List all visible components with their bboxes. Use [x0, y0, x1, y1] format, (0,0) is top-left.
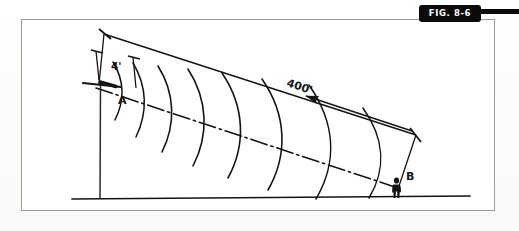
overall-extension-left — [99, 34, 104, 84]
wavefront-arc-4 — [188, 69, 204, 166]
near-dimension-tick-left — [91, 50, 103, 53]
person-figure-icon — [392, 177, 401, 198]
wavefront-arc-5 — [222, 73, 240, 178]
mast-group — [100, 85, 101, 199]
point-b-label: B — [406, 170, 414, 183]
figure-page: FIG. 8-6 — [0, 0, 519, 231]
overall-dimension-group: 400' — [99, 29, 421, 189]
point-a-label: A — [118, 94, 127, 107]
near-extension-left — [96, 51, 99, 80]
source-head-group — [83, 82, 121, 87]
figure-number-banner: FIG. 8-6 — [419, 5, 481, 22]
centerline-group — [96, 88, 398, 188]
near-extension-right — [133, 57, 136, 88]
ground-group — [72, 196, 470, 199]
banner-rule — [481, 9, 519, 14]
point-a-group: A — [118, 94, 127, 107]
axis-centerline — [96, 88, 398, 188]
overall-dimension-line — [104, 34, 416, 135]
ground-line — [72, 196, 470, 199]
inner-dimension-group — [306, 96, 412, 131]
inner-dimension-line — [306, 96, 412, 131]
near-dimension-tick-right — [128, 56, 140, 59]
wavefront-group — [113, 62, 381, 199]
near-dimension-label: 4' — [111, 60, 122, 72]
mast-pole — [100, 85, 101, 199]
wavefront-arc-6 — [262, 79, 282, 190]
overall-dimension-tick-left — [99, 29, 111, 39]
figure-number-label: FIG. 8-6 — [419, 5, 481, 22]
wave-propagation-diagram: 400' 4' A B — [0, 0, 519, 231]
